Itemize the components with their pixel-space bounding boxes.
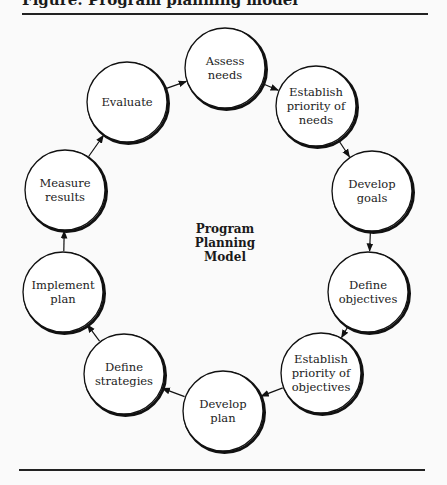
node-label-line: priority of (292, 366, 351, 380)
node-develop-plan: Developplan (183, 371, 263, 451)
node-develop-goals: Developgoals (332, 151, 412, 231)
node-label-line: results (39, 190, 90, 204)
node-establish-priority-needs: Establishpriority ofneeds (276, 66, 356, 146)
node-define-strategies: Definestrategies (84, 334, 164, 414)
node-assess-needs: Assessneeds (185, 28, 265, 108)
node-label-line: goals (348, 191, 395, 205)
node-label-line: Establish (292, 352, 351, 366)
node-label-line: Assess (206, 54, 245, 68)
node-label-line: objectives (292, 380, 351, 394)
node-label-line: Measure (39, 176, 90, 190)
node-measure-results: Measureresults (25, 150, 105, 230)
node-label-line: Implement (31, 278, 94, 292)
arrow-evaluate-to-assess-needs (166, 81, 187, 88)
arrow-develop-goals-to-define-objectives (370, 232, 371, 251)
center-label-line: Planning (190, 236, 260, 250)
arrow-develop-plan-to-define-strategies (162, 388, 184, 396)
node-label-line: Define (339, 278, 398, 292)
center-label: Program Planning Model (190, 222, 260, 264)
node-label-line: needs (206, 68, 245, 82)
node-define-objectives: Defineobjectives (328, 252, 408, 332)
node-label-line: Develop (348, 177, 395, 191)
center-label-line: Model (190, 250, 260, 264)
node-label-line: Develop (199, 397, 246, 411)
node-label-line: plan (199, 411, 246, 425)
node-label-line: plan (31, 292, 94, 306)
node-label-line: strategies (95, 374, 153, 388)
node-label-line: priority of (287, 99, 346, 113)
node-label-line: Define (95, 360, 153, 374)
center-label-line: Program (190, 222, 260, 236)
node-establish-priority-objectives: Establishpriority ofobjectives (281, 333, 361, 413)
node-evaluate: Evaluate (87, 62, 167, 142)
node-label-line: Establish (287, 85, 346, 99)
arrow-establish-priority-objectives-to-develop-plan (261, 388, 283, 396)
node-implement-plan: Implementplan (23, 252, 103, 332)
node-label-line: needs (287, 113, 346, 127)
node-label-line: objectives (339, 292, 398, 306)
node-label-line: Evaluate (101, 95, 152, 109)
